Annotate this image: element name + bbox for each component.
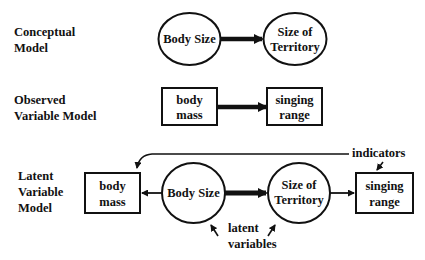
latent-variable-diagram: Conceptual Model Body Size Size of Terri…: [0, 0, 425, 260]
section-label-line: Model: [14, 41, 49, 55]
latent-pointer-arrow: [268, 225, 275, 236]
node-body-size-latent: Body Size: [162, 163, 225, 223]
annotation-latent: latent: [228, 221, 259, 235]
node-label: mass: [99, 195, 126, 209]
node-body-size: Body Size: [159, 13, 221, 65]
node-size-of-territory-latent: Size of Territory: [268, 163, 330, 223]
section-observed-variable-model: Observed Variable Model body mass singin…: [14, 88, 322, 125]
node-body-mass: body mass: [162, 88, 217, 125]
section-label-line: Latent: [18, 169, 54, 183]
node-label: mass: [176, 108, 203, 122]
node-singing-range-latent: singing range: [356, 173, 413, 213]
node-label: singing: [365, 179, 404, 193]
section-label-line: Model: [18, 201, 53, 215]
node-label: Territory: [270, 40, 320, 54]
node-size-of-territory: Size of Territory: [264, 13, 327, 65]
node-label: Body Size: [163, 32, 216, 46]
section-latent-variable-model: Latent Variable Model indicators body ma…: [18, 146, 413, 251]
section-label-line: Conceptual: [14, 25, 76, 39]
annotation-variables: variables: [228, 237, 277, 251]
annotation-indicators: indicators: [352, 146, 406, 160]
section-conceptual-model: Conceptual Model Body Size Size of Terri…: [14, 13, 327, 65]
section-label-line: Observed: [14, 93, 65, 107]
node-label: range: [369, 195, 400, 209]
section-label-line: Variable: [18, 185, 64, 199]
indicator-pointer-curved-arrow: [137, 154, 349, 168]
node-label: body: [176, 93, 203, 107]
indicator-pointer-arrow: [377, 162, 383, 170]
node-label: Territory: [274, 193, 324, 207]
node-body-mass-latent: body mass: [85, 173, 140, 213]
node-label: Size of: [277, 25, 313, 39]
node-label: body: [99, 179, 126, 193]
node-label: range: [279, 108, 310, 122]
node-singing-range: singing range: [267, 88, 322, 125]
ellipse-shape: [264, 13, 327, 65]
node-label: singing: [275, 93, 314, 107]
latent-pointer-arrow: [211, 225, 218, 236]
section-label-line: Variable Model: [14, 109, 97, 123]
node-label: Size of: [281, 178, 317, 192]
node-label: Body Size: [167, 186, 220, 200]
